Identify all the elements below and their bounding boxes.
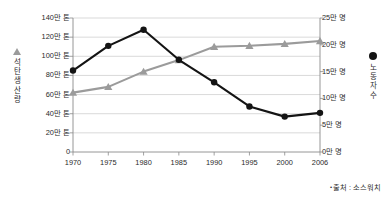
data-point-marker	[176, 57, 182, 63]
coal-production-workers-chart: 석 탄 생 산 량 노 동 자 수 020만 톤40만 톤60만 톤80만 톤1…	[0, 0, 389, 198]
data-point-marker	[140, 27, 146, 33]
data-series-layer	[69, 27, 324, 120]
data-point-marker	[211, 79, 217, 85]
x-axis-tickmarks	[73, 152, 320, 156]
data-point-marker	[70, 67, 76, 73]
source-note: •출처 : 소스워치	[330, 182, 381, 192]
axis-lines	[73, 18, 320, 152]
data-point-marker	[246, 103, 252, 109]
data-point-marker	[317, 110, 323, 116]
source-bullet-icon: •	[330, 184, 332, 190]
series-line	[73, 30, 320, 117]
left-axis-tickmarks	[70, 18, 74, 152]
plot-area	[0, 0, 389, 198]
series-line	[73, 41, 320, 93]
gridlines	[73, 18, 320, 152]
series-workers	[70, 27, 323, 120]
source-text: 출처 : 소스워치	[333, 183, 381, 192]
data-point-marker	[105, 43, 111, 49]
data-point-marker	[282, 113, 288, 119]
